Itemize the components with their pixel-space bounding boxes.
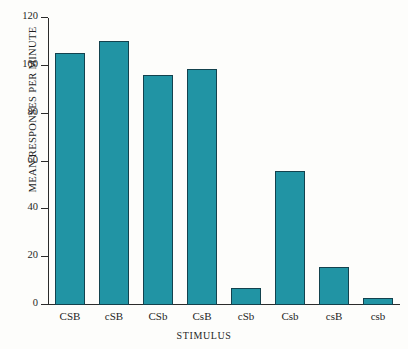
y-axis-tick-label: 80: [28, 106, 39, 117]
bar-group: cSB: [99, 18, 129, 305]
y-axis-tick-label: 20: [28, 249, 39, 260]
y-axis-tick: 80: [41, 113, 48, 114]
y-axis-tick: 40: [41, 208, 48, 209]
x-axis-tick-label: csb: [349, 310, 407, 322]
bar: [319, 267, 349, 305]
bar-series: CSBcSBCSbCsBcSbCsbcsBcsb: [48, 18, 400, 305]
bar-group: csb: [363, 18, 393, 305]
bar: [363, 298, 393, 305]
y-axis-tick-label: 120: [22, 10, 38, 21]
y-axis-tick: 120: [41, 17, 48, 18]
y-axis-tick: 60: [41, 161, 48, 162]
bar: [275, 171, 305, 305]
y-axis-tick: 100: [41, 65, 48, 66]
plot-area: 020406080100120 CSBcSBCSbCsBcSbCsbcsBcsb: [48, 18, 400, 305]
bar-group: CsB: [187, 18, 217, 305]
y-axis-tick-label: 60: [28, 154, 39, 165]
bar-group: cSb: [231, 18, 261, 305]
y-axis-tick-label: 0: [33, 297, 38, 308]
bar: [143, 75, 173, 305]
chart-figure: MEAN RESPONSES PER MINUTE 02040608010012…: [0, 0, 408, 349]
bar-group: csB: [319, 18, 349, 305]
y-axis-tick-label: 40: [28, 201, 39, 212]
bar: [99, 41, 129, 305]
y-axis-tick-label: 100: [22, 58, 38, 69]
bar: [231, 288, 261, 305]
bar: [55, 53, 85, 305]
bar: [187, 69, 217, 305]
y-axis-tick: 20: [41, 256, 48, 257]
y-axis-tick: 0: [41, 304, 48, 305]
bar-group: CSB: [55, 18, 85, 305]
bar-group: CSb: [143, 18, 173, 305]
bar-group: Csb: [275, 18, 305, 305]
x-axis-title: STIMULUS: [0, 330, 408, 341]
